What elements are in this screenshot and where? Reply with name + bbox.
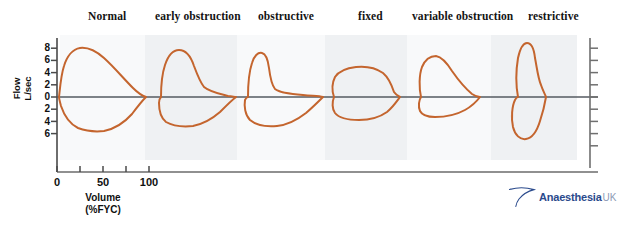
y-tick-neg4: 4: [44, 117, 50, 127]
right-axis-ticks: [590, 48, 598, 146]
curve-restrictive: [512, 43, 546, 139]
flow-volume-loop-figure: Normal early obstruction obstructive fix…: [0, 0, 627, 227]
anaesthesia-uk-logo: Anaesthesia UK: [508, 186, 616, 208]
y-tick-2: 2: [44, 80, 50, 90]
x-axis-title: Volume (%FYC): [85, 192, 121, 216]
logo-word: Anaesthesia: [539, 191, 602, 203]
curve-obstructive: [245, 53, 323, 126]
y-tick-neg6: 6: [44, 129, 50, 139]
x-tick-100: 100: [140, 176, 158, 188]
y-axis-title-line1: Flow: [12, 59, 23, 119]
swoosh-icon: [508, 186, 538, 208]
curve-early-obstruction: [159, 50, 236, 126]
y-axis-title-line2: L/sec: [22, 59, 33, 119]
y-tick-4: 4: [44, 68, 50, 78]
x-tick-50: 50: [97, 176, 109, 188]
y-tick-8: 8: [44, 43, 50, 53]
x-axis-title-line2: (%FYC): [85, 204, 121, 216]
x-axis-ticks: [57, 166, 149, 172]
y-tick-6: 6: [44, 55, 50, 65]
x-axis-title-line1: Volume: [85, 192, 121, 204]
curve-normal: [59, 48, 146, 132]
y-tick-neg2: 2: [44, 104, 50, 114]
y-axis-title: Flow L/sec: [12, 59, 33, 119]
curve-variable-obstruction: [419, 56, 480, 117]
curve-fixed: [333, 67, 400, 120]
x-tick-0: 0: [54, 176, 60, 188]
y-tick-0: 0: [44, 92, 50, 102]
logo-suffix: UK: [603, 192, 617, 203]
y-axis-ticks: [51, 48, 57, 133]
